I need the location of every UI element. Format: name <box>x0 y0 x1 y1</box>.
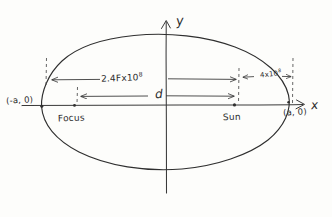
x-axis <box>22 100 305 109</box>
y-axis-label: y <box>175 14 184 28</box>
point-right-vertex <box>287 101 290 104</box>
guide-sun <box>239 68 240 104</box>
major-distance-exponent: 8 <box>138 70 142 77</box>
guide-left-outer <box>46 58 47 87</box>
sun-label: Sun <box>223 113 241 123</box>
focus-label: Focus <box>58 114 85 124</box>
y-axis <box>162 21 171 194</box>
major-distance-mantissa: 2.4Fx10 <box>101 72 139 83</box>
guide-focus <box>77 87 78 104</box>
marked-points <box>40 101 290 108</box>
point-sun <box>233 103 236 106</box>
x-axis-label: x <box>311 99 319 111</box>
left-vertex-label: (-a, 0) <box>6 95 34 105</box>
dashed-guides <box>46 58 293 104</box>
distance-d-label: d <box>155 88 163 100</box>
figure-canvas: y x (-a, 0) (a, 0) Focus Sun d 2.4Fx108 … <box>0 0 332 217</box>
major-dimension-arrow <box>52 79 236 80</box>
guide-right-outer <box>293 58 294 104</box>
right-vertex-label: (a, 0) <box>283 107 307 117</box>
orbit-ellipse <box>41 34 289 169</box>
point-left-vertex <box>40 105 43 108</box>
major-distance-label: 2.4Fx108 <box>101 71 143 83</box>
minor-distance-exponent: 8 <box>278 68 282 73</box>
point-focus <box>73 104 76 107</box>
